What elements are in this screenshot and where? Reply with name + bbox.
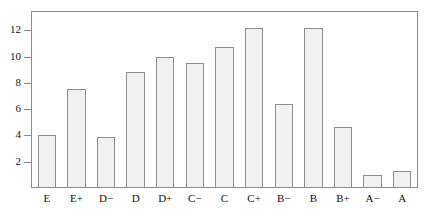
x-axis-tick-label: E (32, 193, 62, 204)
x-axis-tick-label: C (210, 193, 240, 204)
bar-chart: 24681012 EE+D−DD+C−CC+B−BB+A−A (0, 0, 432, 220)
x-axis-tick-label: D+ (150, 193, 180, 204)
y-axis: 24681012 (0, 0, 32, 220)
y-axis-tick-label: 12 (1, 24, 21, 35)
x-axis-tick-label: A (387, 193, 417, 204)
x-axis-tick-label: E+ (62, 193, 92, 204)
x-axis-tick-label: B (299, 193, 329, 204)
y-axis-tick-label: 4 (1, 129, 21, 140)
bar (67, 89, 85, 188)
x-axis-tick-label: B− (269, 193, 299, 204)
y-axis-tick-label: 8 (1, 77, 21, 88)
bar (245, 28, 263, 188)
bar (275, 104, 293, 188)
y-axis-tick-label: 6 (1, 103, 21, 114)
bar (393, 171, 411, 188)
x-axis-tick-label: A− (358, 193, 388, 204)
x-axis: EE+D−DD+C−CC+B−BB+A−A (32, 193, 417, 215)
x-axis-tick-label: D (121, 193, 151, 204)
bar (156, 57, 174, 188)
bar (186, 63, 204, 188)
y-axis-tick-label: 2 (1, 156, 21, 167)
x-axis-tick-label: C− (180, 193, 210, 204)
bar (215, 47, 233, 188)
bar (97, 137, 115, 188)
bar (38, 135, 56, 188)
x-axis-tick-label: D− (91, 193, 121, 204)
bars-layer (32, 12, 417, 188)
x-axis-tick-label: B+ (328, 193, 358, 204)
bar (304, 28, 322, 188)
bar (363, 175, 381, 188)
y-axis-tick-label: 10 (1, 51, 21, 62)
bar (126, 72, 144, 188)
x-axis-tick-label: C+ (239, 193, 269, 204)
bar (334, 127, 352, 188)
